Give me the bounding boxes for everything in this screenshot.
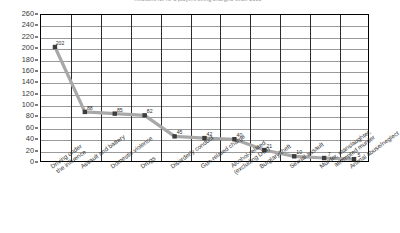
y-axis-tick-label: 40	[26, 135, 34, 143]
y-axis-tick-mark	[35, 93, 38, 94]
data-point-label: 85	[117, 107, 123, 113]
y-axis-tick-mark	[35, 25, 38, 26]
y-axis-tick-label: 60	[26, 124, 34, 132]
y-axis-tick-mark	[35, 150, 38, 151]
y-axis-tick-label: 200	[22, 44, 34, 52]
data-point-label: 202	[56, 40, 65, 46]
y-axis-tick-label: 260	[22, 10, 34, 18]
y-axis-tick-label: 120	[22, 90, 34, 98]
y-axis-tick-label: 180	[22, 56, 34, 64]
y-axis-tick-mark	[35, 70, 38, 71]
data-point-label: 82	[147, 108, 153, 114]
data-point-label: 45	[177, 129, 183, 135]
y-axis: 020406080100120140160180200220240260	[0, 14, 38, 162]
y-axis-tick-mark	[35, 36, 38, 37]
y-axis-tick-mark	[35, 48, 38, 49]
y-axis-tick-label: 220	[22, 33, 34, 41]
x-axis-labels: Driving underthe influenceAssault and ba…	[0, 162, 376, 233]
chart-title: Reasons for NFL players being charged si…	[48, 0, 348, 3]
y-axis-tick-label: 100	[22, 101, 34, 109]
y-axis-tick-mark	[35, 116, 38, 117]
y-axis-tick-label: 160	[22, 67, 34, 75]
y-axis-tick-label: 240	[22, 21, 34, 29]
y-axis-tick-mark	[35, 59, 38, 60]
y-axis-tick-mark	[35, 82, 38, 83]
data-point-label: 88	[87, 105, 93, 111]
y-axis-tick-mark	[35, 105, 38, 106]
y-axis-tick-label: 140	[22, 78, 34, 86]
y-axis-tick-mark	[35, 14, 38, 15]
y-axis-tick-label: 20	[26, 147, 34, 155]
y-axis-tick-mark	[35, 139, 38, 140]
y-axis-tick-label: 80	[26, 112, 34, 120]
y-axis-tick-mark	[35, 127, 38, 128]
